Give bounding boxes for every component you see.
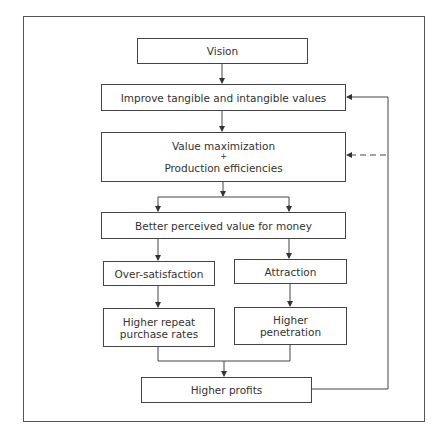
node-attraction: Attraction: [234, 259, 347, 284]
node-label-line1: Higher: [273, 314, 308, 326]
node-label: Attraction: [265, 266, 317, 278]
node-label-line2: purchase rates: [120, 328, 198, 340]
node-vision: Vision: [137, 38, 308, 64]
node-label-line2: +: [220, 152, 227, 162]
node-label: Higher profits: [191, 384, 263, 396]
node-label: Improve tangible and intangible values: [121, 92, 327, 104]
node-over-satisfaction: Over-satisfaction: [103, 261, 215, 286]
node-value-maximization: Value maximization + Production efficien…: [101, 132, 346, 182]
node-better-value: Better perceived value for money: [101, 212, 346, 239]
node-higher-repeat: Higher repeat purchase rates: [103, 308, 215, 347]
node-label: Better perceived value for money: [135, 220, 312, 232]
node-label-line1: Higher repeat: [123, 316, 195, 328]
node-improve-values: Improve tangible and intangible values: [101, 84, 346, 111]
node-label-line3: Production efficiencies: [164, 162, 282, 174]
node-higher-profits: Higher profits: [141, 377, 312, 403]
node-higher-penetration: Higher penetration: [234, 307, 347, 345]
node-label: Vision: [207, 45, 238, 57]
node-label: Over-satisfaction: [115, 268, 204, 280]
node-label-line1: Value maximization: [172, 140, 275, 152]
node-label-line2: penetration: [260, 326, 321, 338]
